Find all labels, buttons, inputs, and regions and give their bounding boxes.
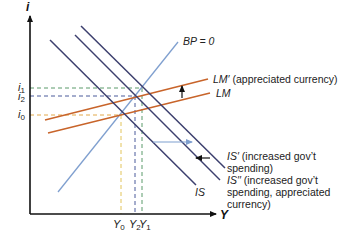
is-label: IS [195, 186, 205, 198]
y1-label: Y1 [139, 218, 151, 232]
is-prime-note: spending) [227, 162, 273, 174]
is-prime-label: IS′ (increased gov’t [227, 150, 316, 162]
y0-label: Y0 [113, 218, 125, 232]
i0-label: i0 [18, 108, 25, 122]
bp-label: BP = 0 [183, 35, 215, 47]
is-double-prime-label: IS′′ (increased gov’t [227, 174, 318, 186]
lm-prime-label: LM′ (appreciated currency) [213, 73, 338, 85]
y-axis-label: i [26, 0, 30, 14]
is-double-prime-note-2: spending, appreciated [227, 186, 330, 198]
is-lm-bp-diagram: BP = 0 LM′ (appreciated currency) LM IS … [0, 0, 346, 239]
bp-curve [58, 42, 178, 192]
is-double-prime-note-3: currency) [227, 198, 271, 210]
is-prime-curve [81, 26, 225, 168]
x-axis-label: Y [220, 208, 229, 222]
lm-label: LM [216, 87, 231, 99]
